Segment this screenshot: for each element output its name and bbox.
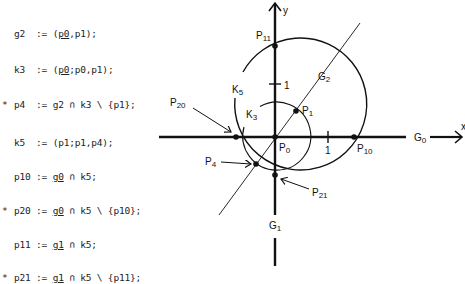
svg-text:P0: P0 [279, 142, 291, 155]
point-p20: P20 [170, 97, 239, 140]
svg-text:G2: G2 [318, 71, 331, 84]
y-axis-label: y [283, 5, 288, 16]
svg-text:P11: P11 [256, 30, 272, 43]
svg-text:P21: P21 [312, 187, 328, 200]
line-g2: G2 [219, 23, 360, 215]
svg-text:P1: P1 [302, 105, 314, 118]
svg-text:P20: P20 [170, 97, 186, 110]
circle-k5: K5 [232, 38, 367, 170]
point-p1: P1 [293, 105, 313, 118]
svg-text:K3: K3 [246, 109, 258, 122]
x-axis-label: x [461, 121, 465, 132]
svg-text:G1: G1 [269, 220, 282, 233]
x-axis-g0: G0 x [159, 121, 465, 145]
svg-text:P10: P10 [357, 143, 373, 156]
x-tick-label: 1 [325, 145, 331, 156]
svg-text:P4: P4 [205, 156, 217, 169]
svg-text:K5: K5 [232, 84, 244, 97]
point-p21: P21 [272, 172, 328, 200]
geometry-diagram: G0 x y G1 1 1 G2 K3 K5 P0 P1 P4 [0, 0, 465, 284]
y-tick-label: 1 [284, 80, 290, 91]
svg-text:G0: G0 [414, 132, 427, 145]
